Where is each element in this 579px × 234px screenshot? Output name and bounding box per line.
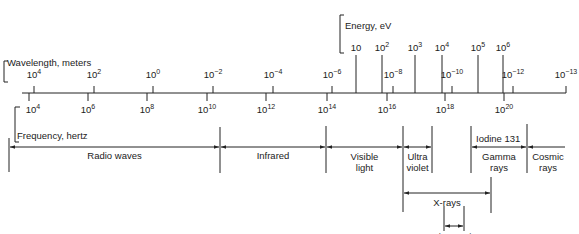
frequency-tick-label: 1012 — [257, 104, 275, 115]
band-label-ultra-violet: Ultraviolet — [406, 151, 428, 173]
arrow-left-icon — [528, 145, 533, 149]
frequency-axis-label: Frequency, hertz — [17, 130, 88, 141]
wavelength-tick-label: 102 — [87, 69, 101, 80]
frequency-tick-label: 1014 — [318, 104, 336, 115]
arrow-left-icon — [404, 191, 409, 195]
spectrum-diagram — [0, 0, 579, 234]
arrow-left-icon — [404, 145, 409, 149]
xrays-label: X-rays — [433, 197, 460, 208]
arrow-right-icon — [485, 191, 490, 195]
arrow-left-icon — [221, 145, 226, 149]
energy-tick-label: 105 — [471, 42, 485, 53]
energy-bracket — [340, 15, 344, 53]
energy-tick-label: 103 — [408, 42, 422, 53]
arrow-left-icon — [10, 145, 15, 149]
arrow-right-icon — [214, 145, 219, 149]
arrow-right-icon — [521, 145, 526, 149]
arrow-left-icon — [445, 224, 450, 228]
wavelength-tick-label: 10−2 — [204, 69, 223, 80]
frequency-tick-label: 1016 — [378, 104, 396, 115]
wavelength-tick-label: 10−10 — [441, 69, 463, 80]
iodine-131-label: Iodine 131 — [476, 133, 520, 144]
band-label-gamma-rays: Gammarays — [482, 151, 516, 173]
frequency-tick-label: 1010 — [198, 104, 216, 115]
frequency-tick-label: 108 — [140, 104, 154, 115]
arrow-left-icon — [472, 145, 477, 149]
arrow-right-icon — [320, 145, 325, 149]
wavelength-tick-label: 104 — [27, 69, 41, 80]
wavelength-axis-label: Wavelength, meters — [7, 57, 91, 68]
arrow-right-icon — [397, 145, 402, 149]
frequency-tick-label: 1020 — [495, 104, 513, 115]
wavelength-tick-label: 10−8 — [384, 69, 403, 80]
energy-tick-label: 10 — [351, 42, 362, 53]
wavelength-tick-label: 10−13 — [555, 69, 577, 80]
wavelength-tick-label: 10−6 — [323, 69, 342, 80]
frequency-tick-label: 1018 — [436, 104, 454, 115]
band-label-visible-light: Visiblelight — [351, 151, 379, 173]
arrow-right-icon — [458, 224, 463, 228]
frequency-tick-label: 106 — [81, 104, 95, 115]
energy-tick-label: 102 — [375, 42, 389, 53]
wavelength-tick-label: 10−12 — [502, 69, 524, 80]
energy-axis-label: Energy, eV — [345, 20, 391, 31]
arrow-right-icon — [426, 145, 431, 149]
diagnostic-xrays-label: DiagnosticX-rays — [432, 231, 476, 234]
wavelength-tick-label: 10−4 — [264, 69, 283, 80]
band-label-cosmic-rays: Cosmicrays — [532, 151, 564, 173]
band-label-infrared: Infrared — [257, 150, 290, 161]
band-label-radio-waves: Radio waves — [87, 150, 141, 161]
frequency-tick-label: 104 — [26, 104, 40, 115]
wavelength-tick-label: 100 — [146, 69, 160, 80]
arrow-left-icon — [327, 145, 332, 149]
energy-tick-label: 104 — [435, 42, 449, 53]
energy-tick-label: 106 — [496, 42, 510, 53]
